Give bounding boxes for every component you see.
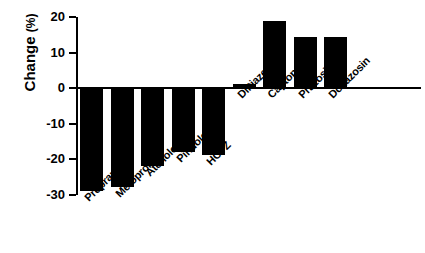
y-axis-tick bbox=[69, 16, 76, 18]
y-axis-tick bbox=[69, 158, 76, 160]
y-axis-tick bbox=[69, 123, 76, 125]
y-axis-tick bbox=[69, 194, 76, 196]
y-axis-tick-label: -30 bbox=[25, 188, 65, 201]
y-axis-tick bbox=[69, 52, 76, 54]
y-axis-tick bbox=[69, 87, 76, 89]
y-axis-spine bbox=[76, 17, 78, 195]
y-axis-tick-label: -10 bbox=[25, 117, 65, 130]
y-axis-tick-label: -20 bbox=[25, 152, 65, 165]
y-axis-tick-label: 10 bbox=[25, 46, 65, 59]
y-axis-tick-label: 0 bbox=[25, 81, 65, 94]
y-axis-tick-label: 20 bbox=[25, 10, 65, 23]
bar-chart-figure: Change (%) 20100-10-20-30 PropranololMet… bbox=[0, 0, 425, 253]
